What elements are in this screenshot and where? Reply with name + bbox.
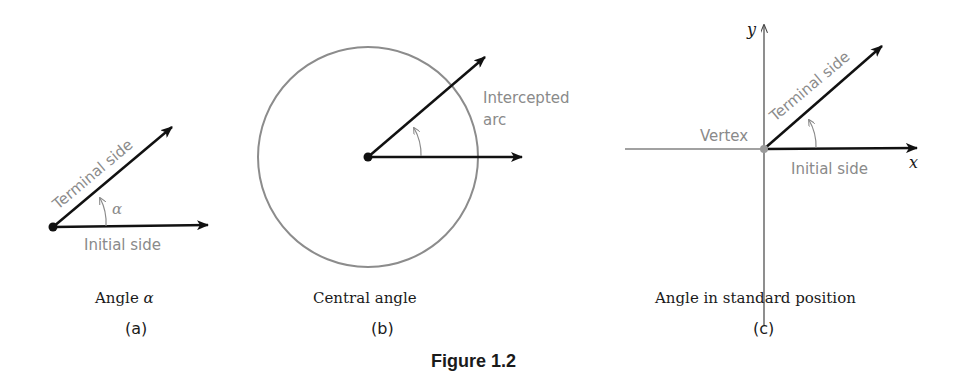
angle-arc-arrow-icon xyxy=(809,120,816,148)
caption-central-angle: Central angle xyxy=(313,289,417,307)
initial-side-label: Initial side xyxy=(84,236,161,254)
panel-c-standard-position: y x Vertex Terminal side Initial side An… xyxy=(625,20,918,338)
intercepted-arc-label-line1: Intercepted xyxy=(483,89,570,107)
terminal-side-label: Terminal side xyxy=(765,48,853,126)
terminal-side-label: Terminal side xyxy=(48,136,136,214)
vertex-dot xyxy=(760,145,768,153)
initial-side-ray xyxy=(764,148,917,149)
terminal-side-ray xyxy=(368,57,485,157)
vertex-dot xyxy=(49,223,58,232)
initial-side-label: Initial side xyxy=(791,160,868,178)
panel-a-angle-alpha: Terminal side α Initial side Angle α (a) xyxy=(48,127,208,338)
y-axis-label: y xyxy=(746,20,757,39)
intercepted-arc-label-line2: arc xyxy=(483,111,506,129)
subfigure-letter-c: (c) xyxy=(753,319,774,338)
caption-angle-alpha: Angle α xyxy=(94,289,154,307)
x-axis-label: x xyxy=(909,153,918,172)
subfigure-letter-b: (b) xyxy=(371,319,394,338)
angle-arc-arrow-icon xyxy=(414,128,421,156)
center-dot xyxy=(364,153,373,162)
panel-b-central-angle: Intercepted arc Central angle (b) xyxy=(258,47,570,338)
subfigure-letter-a: (a) xyxy=(125,319,147,338)
vertex-label: Vertex xyxy=(700,127,748,145)
angle-arc-arrow-icon xyxy=(100,198,106,226)
initial-side-ray xyxy=(53,225,208,227)
caption-standard-position: Angle in standard position xyxy=(654,289,856,307)
figure-1-2: Terminal side α Initial side Angle α (a)… xyxy=(0,0,960,383)
angle-alpha-label: α xyxy=(112,200,122,218)
figure-title: Figure 1.2 xyxy=(431,351,516,371)
